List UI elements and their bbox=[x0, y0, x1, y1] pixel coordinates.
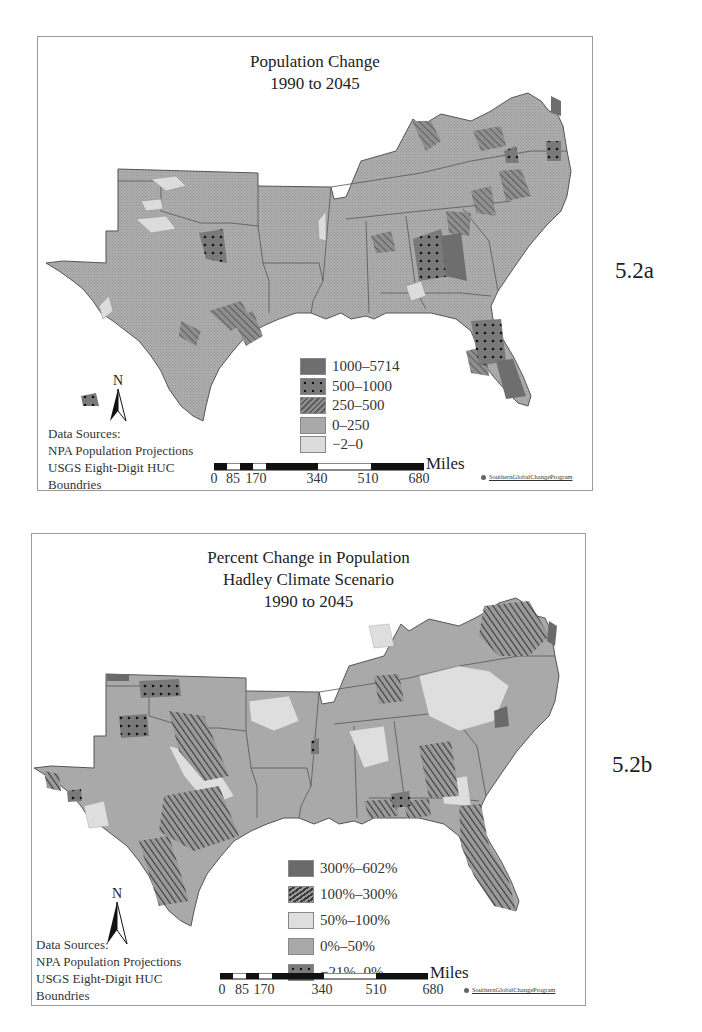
legend-item: 0–250 bbox=[300, 416, 400, 436]
figure-label-a: 5.2a bbox=[615, 258, 654, 284]
swatch-dark-dots bbox=[300, 378, 326, 395]
scale-unit: Miles bbox=[426, 454, 465, 474]
data-sources: Data Sources: NPA Population Projections… bbox=[48, 425, 193, 493]
program-logo-icon bbox=[481, 475, 486, 480]
scale-bar bbox=[214, 463, 424, 471]
legend-item: −2–0 bbox=[300, 435, 400, 455]
legend-item: 300%–602% bbox=[288, 855, 398, 881]
credit-link[interactable]: SouthernGlobalChangeProgram bbox=[464, 986, 555, 993]
swatch-dark-solid bbox=[288, 860, 314, 877]
north-label: N bbox=[108, 373, 128, 389]
legend: 300%–602% 100%–300% 50%–100% 0%–50% −21%… bbox=[288, 855, 398, 985]
legend-item: 1000–5714 bbox=[300, 357, 400, 377]
legend-item: 100%–300% bbox=[288, 881, 398, 907]
map-panel-population-change: Population Change 1990 to 2045 bbox=[37, 36, 593, 491]
legend-item: 500–1000 bbox=[300, 377, 400, 397]
figure-label-b: 5.2b bbox=[612, 752, 652, 778]
north-arrow: N bbox=[108, 373, 128, 427]
swatch-light-gray bbox=[288, 912, 314, 929]
swatch-dark-solid bbox=[300, 358, 326, 375]
swatch-mid-gray bbox=[300, 417, 326, 434]
scale-bar bbox=[220, 973, 428, 981]
program-logo-icon bbox=[464, 988, 469, 993]
legend-item: 0%–50% bbox=[288, 933, 398, 959]
swatch-mid-gray bbox=[288, 938, 314, 955]
map-panel-percent-change: Percent Change in Population Hadley Clim… bbox=[31, 533, 586, 1006]
swatch-light-gray bbox=[300, 436, 326, 453]
credit-link[interactable]: SouthernGlobalChangeProgram bbox=[481, 473, 572, 480]
legend: 1000–5714 500–1000 250–500 0–250 −2–0 bbox=[300, 357, 400, 455]
north-label: N bbox=[106, 886, 128, 902]
legend-item: 250–500 bbox=[300, 396, 400, 416]
swatch-hatch bbox=[300, 397, 326, 414]
north-arrow-icon bbox=[108, 389, 128, 423]
legend-item: 50%–100% bbox=[288, 907, 398, 933]
data-sources: Data Sources: NPA Population Projections… bbox=[36, 936, 181, 1004]
scale-unit: Miles bbox=[430, 963, 469, 983]
swatch-hatch-dark bbox=[288, 886, 314, 903]
